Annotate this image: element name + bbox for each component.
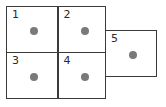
cell-2[interactable]: 2	[58, 6, 106, 53]
diagram-canvas: 1 2 3 4 5	[0, 0, 166, 107]
gray-dot-icon	[30, 73, 38, 81]
cell-1-label: 1	[12, 9, 19, 21]
cell-1[interactable]: 1	[6, 6, 58, 53]
cell-5[interactable]: 5	[105, 30, 157, 77]
gray-dot-icon	[30, 27, 38, 35]
gray-dot-icon	[129, 51, 137, 59]
cell-4-label: 4	[64, 55, 71, 67]
gray-dot-icon	[81, 73, 89, 81]
cell-4[interactable]: 4	[58, 52, 106, 99]
cell-3[interactable]: 3	[6, 52, 58, 99]
cell-5-label: 5	[111, 33, 118, 45]
cell-2-label: 2	[64, 9, 71, 21]
cell-3-label: 3	[12, 55, 19, 67]
gray-dot-icon	[81, 27, 89, 35]
